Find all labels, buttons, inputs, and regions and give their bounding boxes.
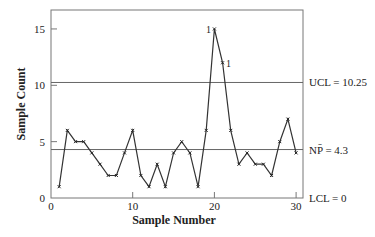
data-point bbox=[246, 151, 249, 154]
violation-flag: 1 bbox=[226, 58, 231, 69]
ucl-label: UCL = 10.25 bbox=[309, 76, 368, 88]
np-bar-label: NP̄ = 4.3 bbox=[309, 144, 349, 156]
np-control-chart: UCL = 10.25NP̄ = 4.3LCL = 0 051015010203… bbox=[0, 0, 375, 237]
axis-ticks: 0510150102030 bbox=[34, 23, 302, 212]
y-axis-label: Sample Count bbox=[14, 67, 28, 140]
lcl-label: LCL = 0 bbox=[309, 192, 347, 204]
x-axis-label: Sample Number bbox=[132, 213, 216, 227]
y-tick-label: 10 bbox=[34, 79, 46, 91]
y-tick-label: 15 bbox=[34, 23, 46, 35]
sample-count-series bbox=[59, 29, 296, 187]
violation-flag: 1 bbox=[206, 24, 211, 35]
y-tick-label: 0 bbox=[40, 192, 46, 204]
x-tick-label: 0 bbox=[48, 200, 54, 212]
y-tick-label: 5 bbox=[40, 136, 46, 148]
plot-frame bbox=[51, 10, 303, 198]
x-tick-label: 20 bbox=[209, 200, 221, 212]
x-tick-label: 30 bbox=[291, 200, 303, 212]
x-tick-label: 10 bbox=[127, 200, 139, 212]
